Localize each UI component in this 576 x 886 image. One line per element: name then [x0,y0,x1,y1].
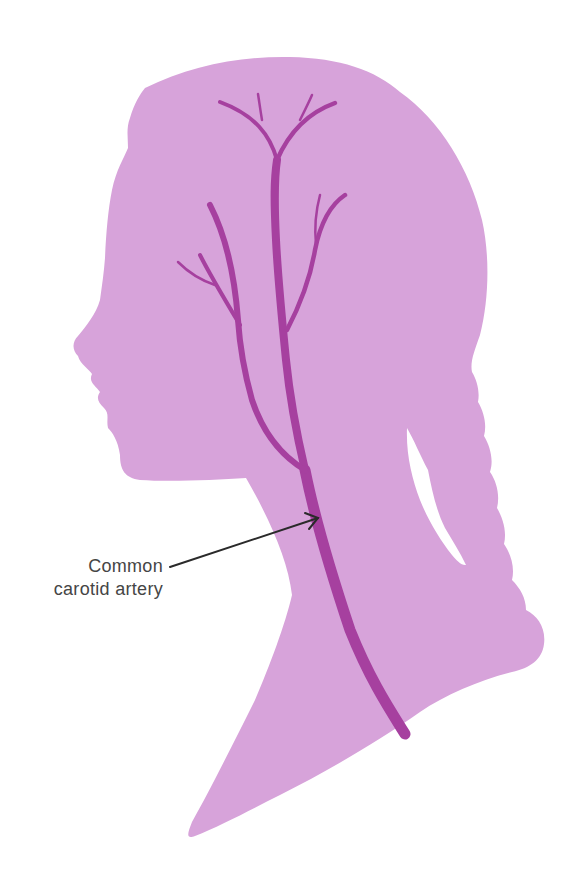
label-line-1: Common [54,555,163,578]
carotid-diagram: Common carotid artery [0,0,576,886]
head-silhouette-illustration [0,0,576,886]
head-neck-silhouette [74,57,545,837]
common-carotid-label: Common carotid artery [54,555,163,601]
label-line-2: carotid artery [54,578,163,601]
